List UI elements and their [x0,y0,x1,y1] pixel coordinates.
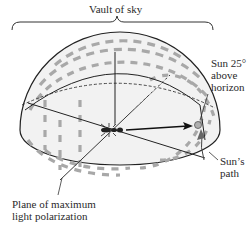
sky-dome [20,32,220,165]
polarization-leader [58,178,62,195]
sky-vault-diagram [0,0,247,227]
vault-of-sky-label: Vault of sky [89,3,142,15]
vault-brace [12,16,213,30]
polarization-label-line-2: light polarization [12,210,96,222]
sun-label-line-2: above [211,69,246,81]
polarization-label-line-1: Plane of maximum [12,198,96,210]
sun-path-label-line-2: path [220,167,244,179]
sun-path-leader [209,152,218,160]
sun-path-label: Sun’s path [220,155,244,179]
sun-path-label-line-1: Sun’s [220,155,244,167]
sun-elevation-label: Sun 25° above horizon [211,57,246,93]
sun-label-line-1: Sun 25° [211,57,246,69]
sun-label-line-3: horizon [211,81,246,93]
polarization-plane-label: Plane of maximum light polarization [12,198,96,222]
sun-icon [195,122,202,129]
